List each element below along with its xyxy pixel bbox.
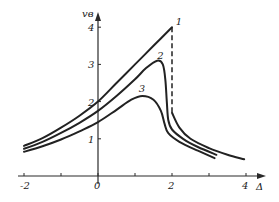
curve-1-label: 1 [176, 16, 182, 27]
y-axis-label: vв [82, 8, 94, 19]
x-axis-label: Δ [255, 181, 263, 192]
y-tick-label: 3 [88, 59, 94, 70]
curve-2-label: 2 [156, 50, 163, 61]
chart: Δ vв -20241234 123 [0, 0, 279, 202]
x-tick-label: -2 [20, 180, 30, 191]
y-tick-label: 1 [88, 134, 94, 145]
curve-3 [24, 96, 215, 158]
curves: 123 [24, 16, 244, 159]
y-axis-arrow-icon [95, 12, 101, 21]
y-tick-label: 4 [87, 22, 94, 33]
x-tick-label: 0 [94, 180, 101, 191]
x-tick-label: 2 [167, 180, 174, 191]
axes: Δ vв [18, 8, 266, 192]
x-axis-arrow-icon [257, 173, 266, 179]
x-tick-label: 4 [241, 180, 248, 191]
ticks: -20241234 [20, 22, 248, 191]
curve-3-label: 3 [139, 83, 145, 94]
